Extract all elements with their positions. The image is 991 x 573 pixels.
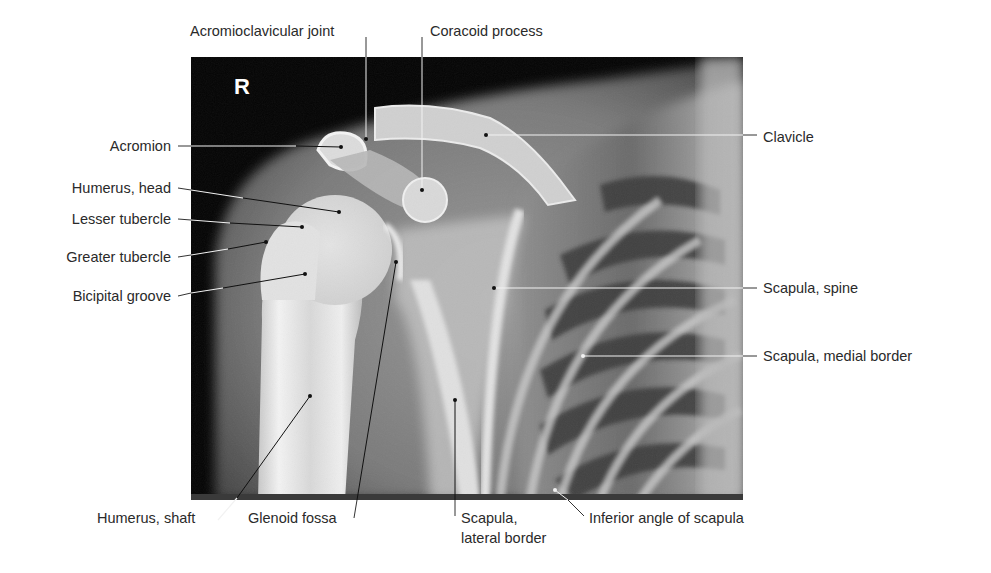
label-scapula-lateral-border-line2: lateral border (461, 530, 546, 547)
label-coracoid-process: Coracoid process (430, 23, 543, 40)
label-acromion: Acromion (110, 138, 171, 155)
label-scapula-medial-border: Scapula, medial border (763, 348, 912, 365)
label-greater-tubercle: Greater tubercle (66, 249, 171, 266)
label-scapula-lateral-border-line1: Scapula, (461, 510, 546, 527)
label-humerus-shaft: Humerus, shaft (97, 510, 195, 527)
label-scapula-spine: Scapula, spine (763, 280, 858, 297)
label-glenoid-fossa: Glenoid fossa (248, 510, 337, 527)
label-bicipital-groove: Bicipital groove (73, 288, 171, 305)
label-acromioclavicular-joint: Acromioclavicular joint (190, 23, 334, 40)
side-marker-r: R (234, 74, 250, 100)
label-inferior-angle-of-scapula: Inferior angle of scapula (589, 510, 744, 527)
label-scapula-lateral-border: Scapula, lateral border (461, 510, 546, 547)
label-clavicle: Clavicle (763, 129, 814, 146)
xray-image (191, 57, 743, 500)
label-lesser-tubercle: Lesser tubercle (72, 211, 171, 228)
shoulder-xray-figure: R Acromioclavicular joint Coracoid proce… (0, 0, 991, 573)
label-humerus-head: Humerus, head (72, 180, 171, 197)
